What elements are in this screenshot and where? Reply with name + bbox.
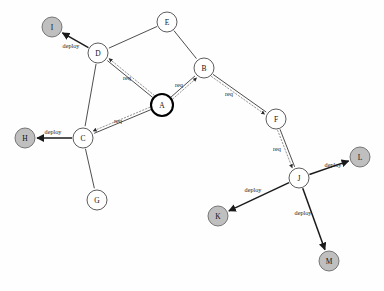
edge-label-layer: deploydeployreqreqreqreqreqdeploydeployd… (45, 42, 343, 216)
node-B[interactable]: B (194, 58, 214, 78)
node-J[interactable]: J (289, 168, 309, 188)
node-label-C: C (80, 134, 85, 143)
edge-label-A-D: req (123, 74, 131, 81)
node-F[interactable]: F (266, 109, 286, 129)
node-I[interactable]: I (42, 17, 62, 37)
edge-label-J-M: deploy (295, 209, 313, 216)
node-C[interactable]: C (73, 128, 93, 148)
node-G[interactable]: G (87, 190, 107, 210)
node-label-K: K (215, 212, 221, 221)
edge-label-B-F: req (225, 90, 233, 97)
node-A[interactable]: A (151, 94, 173, 116)
node-layer: IEDBAFHCLJGKM (15, 12, 370, 271)
edge-J-M (303, 188, 325, 249)
node-label-J: J (298, 174, 301, 183)
edge-label-F-J: req (273, 145, 281, 152)
graph-svg: deploydeployreqreqreqreqreqdeploydeployd… (0, 0, 384, 291)
edge-D-C (85, 64, 96, 126)
edge-label-A-C: req (114, 117, 122, 124)
edge-F-J (280, 129, 295, 167)
edge-E-D (109, 27, 157, 49)
edge-label-A-B: req (175, 81, 183, 88)
node-label-D: D (95, 49, 101, 58)
node-label-G: G (94, 196, 100, 205)
edge-dotted-A-D (109, 59, 154, 96)
node-M[interactable]: M (319, 251, 339, 271)
node-L[interactable]: L (350, 147, 370, 167)
node-E[interactable]: E (157, 12, 177, 32)
node-label-M: M (326, 257, 333, 266)
node-K[interactable]: K (208, 206, 228, 226)
graph-canvas: deploydeployreqreqreqreqreqdeploydeployd… (0, 0, 384, 291)
node-label-E: E (165, 18, 170, 27)
node-label-B: B (201, 64, 206, 73)
edge-A-C (94, 110, 151, 134)
edge-label-J-L: deploy (325, 161, 343, 168)
node-D[interactable]: D (88, 43, 108, 63)
node-label-A: A (159, 101, 165, 110)
edge-dotted-B-F (211, 76, 264, 114)
edge-C-G (85, 149, 94, 189)
node-label-F: F (274, 115, 278, 124)
edge-B-F (213, 74, 266, 112)
edge-E-B (174, 31, 197, 59)
node-label-L: L (358, 153, 363, 162)
edge-label-J-K: deploy (245, 186, 263, 193)
node-H[interactable]: H (15, 128, 35, 148)
edge-label-C-H: deploy (45, 128, 63, 135)
edge-label-D-I: deploy (63, 42, 81, 49)
node-label-H: H (22, 134, 28, 143)
